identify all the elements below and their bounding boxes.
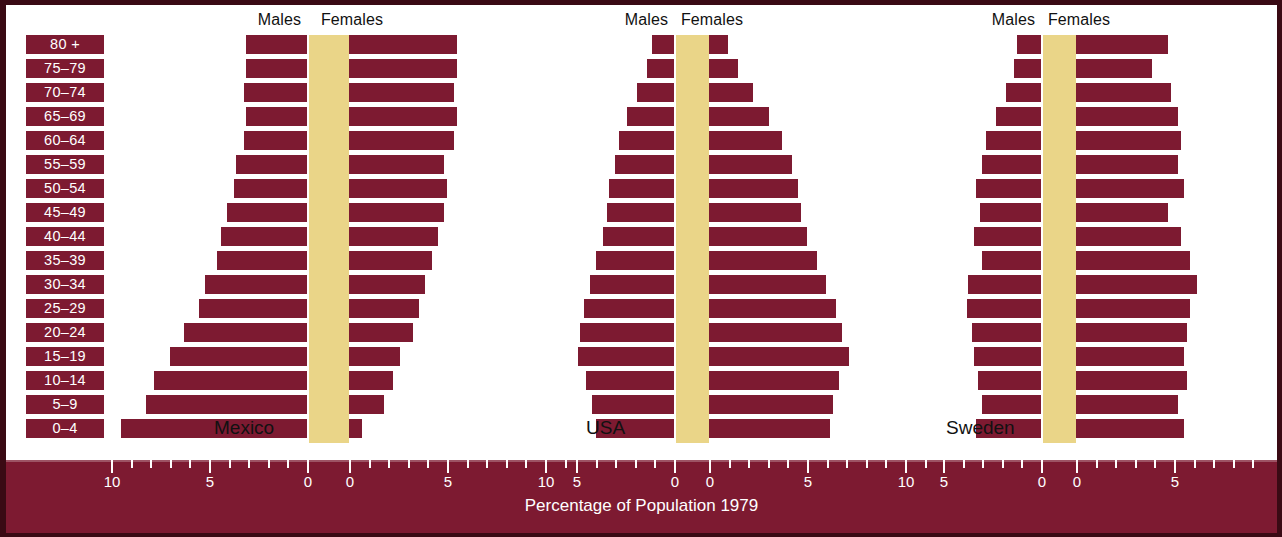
bar-sweden-females-12 [1076,323,1187,342]
population-pyramid-figure: 80 +75–7970–7465–6960–6455–5950–5445–494… [0,0,1282,537]
axis-tick-minor [963,460,965,468]
frame-border-right [1277,0,1282,537]
axis-title: Percentage of Population 1979 [6,496,1277,516]
gender-label-males-mexico: Males [241,11,301,29]
country-caption-sweden: Sweden [946,417,1015,439]
bar-usa-males-1 [647,59,674,78]
axis-tick-minor [768,460,770,468]
bar-mexico-females-2 [349,83,454,102]
bar-mexico-females-1 [349,59,457,78]
center-band-usa [676,35,709,443]
bar-mexico-males-2 [244,83,307,102]
age-group-label: 80 + [26,35,104,54]
axis-tick-label: 5 [557,473,597,490]
gender-label-females-mexico: Females [321,11,383,29]
axis-tick-minor [866,460,868,468]
bar-sweden-females-11 [1076,299,1190,318]
bar-usa-females-4 [709,131,782,150]
bar-usa-males-6 [609,179,674,198]
age-group-label: 50–54 [26,179,104,198]
axis-tick-minor [1233,460,1235,468]
age-group-label: 25–29 [26,299,104,318]
axis-tick-minor [1096,460,1098,468]
bar-usa-females-14 [709,371,839,390]
bar-sweden-males-6 [976,179,1041,198]
bar-sweden-females-3 [1076,107,1178,126]
age-group-label: 75–79 [26,59,104,78]
axis-tick-minor [268,460,270,468]
axis-tick-label: 5 [788,473,828,490]
bar-sweden-males-9 [982,251,1041,270]
age-group-label: 55–59 [26,155,104,174]
axis-tick-major [1076,460,1078,473]
axis-tick-major [545,460,547,473]
x-axis-strip: 051005100505100505 Percentage of Populat… [6,460,1277,533]
bar-sweden-females-15 [1076,395,1178,414]
axis-tick-label: 0 [1057,473,1097,490]
center-band-mexico [309,35,349,443]
bar-sweden-males-15 [982,395,1041,414]
bar-sweden-males-5 [982,155,1041,174]
bar-sweden-females-1 [1076,59,1152,78]
axis-tick-label: 0 [330,473,370,490]
axis-tick-minor [1252,460,1254,468]
bar-usa-females-1 [709,59,738,78]
axis-tick-minor [925,460,927,468]
bar-sweden-females-5 [1076,155,1178,174]
axis-tick-major [807,460,809,473]
bar-mexico-females-9 [349,251,432,270]
axis-tick-major [1041,460,1043,473]
bar-sweden-females-7 [1076,203,1168,222]
axis-tick-minor [229,460,231,468]
bar-usa-females-2 [709,83,753,102]
bar-mexico-females-15 [349,395,384,414]
bar-mexico-males-9 [217,251,307,270]
bar-usa-females-7 [709,203,801,222]
axis-tick-minor [170,460,172,468]
frame-border-bottom [0,533,1282,537]
age-group-label: 20–24 [26,323,104,342]
bar-sweden-females-8 [1076,227,1181,246]
axis-tick-major [447,460,449,473]
bar-sweden-males-11 [967,299,1041,318]
bar-usa-females-8 [709,227,807,246]
bar-usa-males-8 [603,227,674,246]
axis-tick-minor [846,460,848,468]
age-group-label: 30–34 [26,275,104,294]
axis-tick-minor [565,460,567,468]
bar-usa-males-3 [627,107,674,126]
axis-tick-minor [131,460,133,468]
plot-area: 80 +75–7970–7465–6960–6455–5950–5445–494… [6,5,1277,460]
bar-usa-females-16 [709,419,830,438]
bar-usa-females-0 [709,35,728,54]
axis-tick-label: 0 [690,473,730,490]
age-group-label: 0–4 [26,419,104,438]
bar-sweden-males-8 [974,227,1041,246]
axis-baseline [6,460,1277,462]
bar-usa-males-15 [592,395,674,414]
axis-tick-minor [748,460,750,468]
bar-mexico-females-0 [349,35,457,54]
bar-sweden-females-10 [1076,275,1197,294]
bar-usa-males-2 [637,83,674,102]
bar-mexico-females-6 [349,179,447,198]
bar-mexico-females-3 [349,107,457,126]
axis-tick-minor [729,460,731,468]
axis-tick-label: 5 [190,473,230,490]
bar-mexico-males-6 [234,179,307,198]
axis-tick-label: 5 [1155,473,1195,490]
axis-tick-label: 0 [288,473,328,490]
axis-tick-minor [486,460,488,468]
gender-label-females-usa: Females [681,11,743,29]
bar-usa-males-4 [619,131,674,150]
bar-mexico-males-13 [170,347,307,366]
bar-sweden-males-7 [980,203,1041,222]
bar-usa-males-0 [652,35,674,54]
axis-tick-major [1174,460,1176,473]
bar-mexico-females-10 [349,275,425,294]
axis-tick-label: 5 [428,473,468,490]
axis-tick-major [576,460,578,473]
bar-mexico-males-11 [199,299,307,318]
axis-tick-minor [525,460,527,468]
bar-sweden-females-14 [1076,371,1187,390]
